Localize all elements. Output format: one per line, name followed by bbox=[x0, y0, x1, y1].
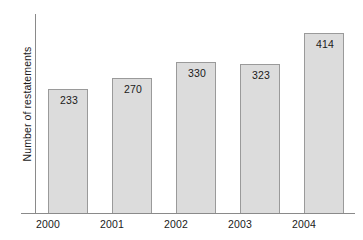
bar-value-2003: 323 bbox=[241, 69, 281, 81]
bar-2001[interactable]: 270 bbox=[112, 78, 152, 213]
bar-value-2002: 330 bbox=[177, 67, 217, 79]
bar-2002[interactable]: 330 bbox=[176, 62, 216, 213]
bar-2000[interactable]: 233 bbox=[48, 89, 88, 213]
bar-value-2004: 414 bbox=[305, 38, 345, 50]
bar-value-2001: 270 bbox=[113, 83, 153, 95]
x-tick-label-2002: 2002 bbox=[141, 218, 211, 230]
bar-2004[interactable]: 414 bbox=[304, 33, 344, 213]
x-tick-label-2001: 2001 bbox=[77, 218, 147, 230]
plot-area: 233 270 330 323 414 bbox=[36, 14, 355, 213]
bar-value-2000: 233 bbox=[49, 94, 89, 106]
bar-2003[interactable]: 323 bbox=[240, 64, 280, 213]
x-tick-label-2003: 2003 bbox=[205, 218, 275, 230]
x-tick-label-2004: 2004 bbox=[269, 218, 339, 230]
x-tick-label-2000: 2000 bbox=[13, 218, 83, 230]
bar-chart-figure: Number of restatements 233 270 330 323 bbox=[0, 0, 363, 240]
y-axis-title: Number of restatements bbox=[21, 24, 33, 184]
